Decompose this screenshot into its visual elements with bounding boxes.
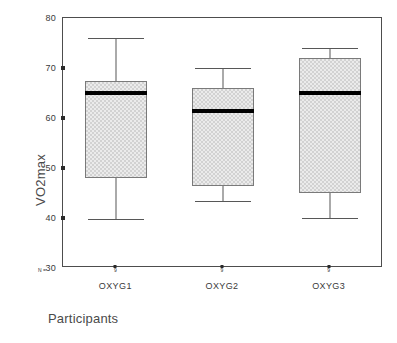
- y-tick-label: 30: [46, 263, 56, 273]
- box-iqr-rect: [299, 58, 361, 193]
- y-tick-label: 50: [46, 163, 56, 173]
- y-tick-label: 40: [46, 213, 56, 223]
- box-iqr-rect: [192, 88, 254, 186]
- lower-whisker-cap: [88, 219, 144, 220]
- upper-whisker-cap: [195, 68, 251, 69]
- n-caption: N =: [38, 267, 46, 273]
- y-tick-label: 80: [46, 13, 56, 23]
- lower-whisker-cap: [302, 218, 358, 219]
- n-value: 9: [114, 267, 117, 273]
- x-category-label: OXYG1: [99, 281, 132, 291]
- upper-whisker-stem: [223, 68, 224, 88]
- median-line: [85, 91, 147, 95]
- lower-whisker-stem: [223, 186, 224, 201]
- n-value: 9: [221, 267, 224, 273]
- n-value: 9: [327, 267, 330, 273]
- y-tick-label: 70: [46, 63, 56, 73]
- box-iqr-rect: [85, 81, 147, 179]
- boxplot-figure: VO2max 304050607080 N = 9OXYG19OXYG29OXY…: [0, 0, 397, 343]
- x-category-label: OXYG2: [205, 281, 238, 291]
- upper-whisker-cap: [88, 38, 144, 39]
- y-tick-mark: [61, 216, 65, 220]
- upper-whisker-stem: [329, 48, 330, 58]
- y-tick-mark: [61, 66, 65, 70]
- y-tick-label: 60: [46, 113, 56, 123]
- plot-area: 304050607080: [62, 17, 382, 267]
- upper-whisker-stem: [116, 38, 117, 81]
- y-tick-mark: [61, 116, 65, 120]
- lower-whisker-stem: [116, 178, 117, 219]
- median-line: [299, 91, 361, 95]
- lower-whisker-stem: [329, 193, 330, 218]
- y-tick-mark: [61, 166, 65, 170]
- upper-whisker-cap: [302, 48, 358, 49]
- x-axis-title: Participants: [48, 311, 118, 326]
- x-category-label: OXYG3: [312, 281, 345, 291]
- lower-whisker-cap: [195, 201, 251, 202]
- median-line: [192, 109, 254, 113]
